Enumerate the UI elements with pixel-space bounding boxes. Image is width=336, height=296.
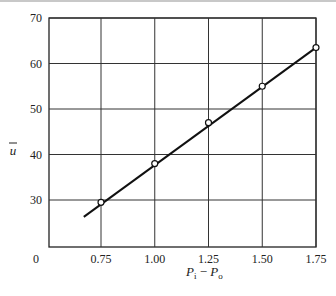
data-point-marker	[152, 161, 158, 167]
x-axis-label: Pi − Po	[185, 264, 223, 281]
y-tick-label: 30	[30, 193, 42, 207]
x-tick-label: 1.00	[144, 252, 165, 266]
x-tick-label: 0.75	[91, 252, 112, 266]
line-chart: 304050607000.751.001.251.501.75uPi − Po	[0, 0, 336, 296]
data-point-marker	[206, 120, 212, 126]
origin-label: 0	[33, 252, 39, 266]
y-tick-label: 70	[30, 11, 42, 25]
data-point-marker	[259, 83, 265, 89]
y-tick-label: 40	[30, 148, 42, 162]
x-tick-label: 1.75	[306, 252, 327, 266]
data-point-marker	[98, 199, 104, 205]
y-tick-label: 60	[30, 57, 42, 71]
y-tick-label: 50	[30, 102, 42, 116]
fit-line	[84, 48, 316, 217]
data-point-marker	[313, 45, 319, 51]
x-tick-label: 1.50	[252, 252, 273, 266]
y-axis-label: u	[10, 143, 17, 158]
